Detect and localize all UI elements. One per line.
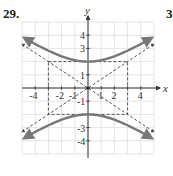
svg-text:-3: -3 [77, 123, 85, 134]
svg-text:x: x [162, 82, 168, 94]
svg-text:y: y [84, 4, 90, 16]
hyperbola-graph: -4-2-1124431-1-3-4xy [0, 0, 173, 176]
svg-text:-1: -1 [69, 90, 77, 101]
svg-text:2: 2 [111, 90, 116, 101]
svg-text:4: 4 [138, 90, 143, 101]
svg-text:-4: -4 [29, 90, 37, 101]
axes [22, 16, 160, 158]
svg-text:-1: -1 [77, 96, 85, 107]
svg-text:-4: -4 [77, 136, 85, 147]
svg-text:4: 4 [80, 30, 85, 41]
svg-text:1: 1 [98, 90, 103, 101]
svg-text:1: 1 [80, 70, 85, 81]
svg-text:-2: -2 [56, 90, 64, 101]
svg-text:3: 3 [80, 43, 85, 54]
